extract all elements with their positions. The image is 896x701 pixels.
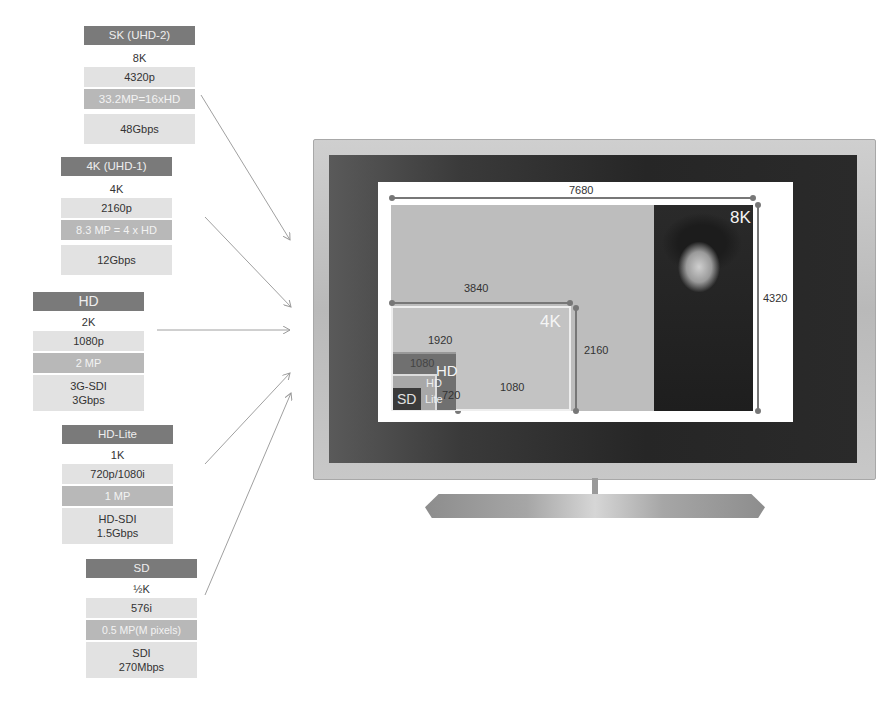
tv-screen: 8K 7680 4320 4K 3840 2160 1920 1080 1080…	[378, 182, 793, 422]
label-height-hd: 1080	[500, 381, 524, 393]
label-width-8k: 7680	[569, 184, 593, 196]
arrow-hdlite-icon	[205, 373, 290, 464]
label-hdlite-1: HD	[426, 377, 442, 389]
label-hdlite-2: Lite	[425, 393, 443, 405]
label-height-8k: 4320	[763, 292, 787, 304]
label-width-hd: 1920	[428, 334, 452, 346]
arrow-4k-icon	[205, 217, 291, 307]
tv-stand-base	[425, 494, 765, 518]
label-width-4k: 3840	[464, 282, 488, 294]
arrow-8k-icon	[201, 95, 290, 240]
arrow-sd-icon	[205, 393, 291, 595]
label-height-hdlite: 720	[442, 389, 460, 401]
tv-stand-neck	[592, 478, 598, 494]
label-sd: SD	[397, 391, 416, 407]
label-width-hdlite: 1080	[410, 357, 434, 369]
label-4k: 4K	[540, 312, 561, 332]
label-height-4k: 2160	[584, 344, 608, 356]
